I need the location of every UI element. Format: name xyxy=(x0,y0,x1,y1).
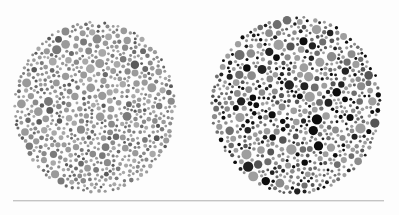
dot xyxy=(39,83,43,87)
dot xyxy=(112,154,115,157)
dot xyxy=(265,48,273,56)
dot xyxy=(75,51,79,55)
dot xyxy=(351,108,356,113)
dot xyxy=(336,177,340,181)
dot xyxy=(74,36,79,41)
dot xyxy=(263,115,268,120)
dot xyxy=(132,100,136,104)
dot xyxy=(91,54,94,57)
dot xyxy=(334,115,337,118)
dot xyxy=(155,68,162,75)
dot xyxy=(356,106,359,109)
dot xyxy=(300,179,303,182)
dot xyxy=(260,52,264,56)
dot xyxy=(228,150,231,153)
dot xyxy=(294,55,300,61)
dot xyxy=(245,86,252,93)
dot xyxy=(144,126,148,130)
dot xyxy=(341,55,345,59)
dot xyxy=(308,105,311,108)
dot xyxy=(117,77,122,82)
dot xyxy=(249,31,252,34)
dot xyxy=(156,92,160,96)
dot xyxy=(357,52,360,55)
dot xyxy=(308,167,312,171)
dot xyxy=(162,97,165,100)
dot xyxy=(336,37,339,40)
dot xyxy=(137,161,140,164)
dot xyxy=(163,145,167,149)
dot xyxy=(322,95,326,99)
dot xyxy=(311,84,319,92)
dot xyxy=(56,100,59,103)
dot xyxy=(356,45,360,49)
dot xyxy=(364,71,373,80)
dot xyxy=(323,129,327,133)
dot xyxy=(43,83,47,87)
dot xyxy=(219,73,223,77)
dot xyxy=(142,79,148,85)
dot xyxy=(289,61,292,64)
dot xyxy=(168,98,175,105)
dot xyxy=(50,151,57,158)
dot xyxy=(87,149,90,152)
dot xyxy=(311,183,315,187)
dot xyxy=(272,157,275,160)
dot xyxy=(339,60,342,63)
dot xyxy=(137,54,140,57)
dot xyxy=(41,151,46,156)
dot xyxy=(261,154,264,157)
dot xyxy=(87,77,92,82)
dot xyxy=(143,44,147,48)
dot xyxy=(21,128,29,136)
dot xyxy=(80,72,87,79)
dot xyxy=(343,113,346,116)
dot xyxy=(332,137,335,140)
dot xyxy=(243,162,253,172)
dot xyxy=(292,65,296,69)
dot xyxy=(136,113,139,116)
dot xyxy=(260,174,263,177)
dot xyxy=(270,170,275,175)
dot xyxy=(310,24,313,27)
dot xyxy=(70,75,73,78)
dot xyxy=(312,25,321,34)
dot xyxy=(78,48,83,53)
dot xyxy=(357,82,365,90)
dot xyxy=(59,110,62,113)
dot xyxy=(78,70,81,73)
dot xyxy=(376,92,381,97)
dot xyxy=(126,101,132,107)
dot xyxy=(104,159,111,166)
dot xyxy=(143,144,147,148)
dot xyxy=(78,57,81,60)
dot xyxy=(256,61,259,64)
dot xyxy=(59,67,62,70)
dot xyxy=(287,132,290,135)
dot xyxy=(85,124,88,127)
dot xyxy=(168,134,171,137)
dot xyxy=(299,130,303,134)
dot xyxy=(321,77,324,80)
dot xyxy=(259,38,263,42)
dot xyxy=(256,57,259,60)
dot xyxy=(136,137,139,140)
dot xyxy=(124,163,128,167)
dot xyxy=(112,164,115,167)
dot xyxy=(88,106,91,109)
dot xyxy=(233,105,239,111)
dot xyxy=(100,175,104,179)
dot xyxy=(152,118,158,124)
dot xyxy=(343,107,346,110)
dot xyxy=(156,64,159,67)
dot xyxy=(41,42,44,45)
dot xyxy=(309,160,312,163)
dot xyxy=(88,56,91,59)
dot xyxy=(109,150,112,153)
dot xyxy=(330,87,333,90)
dot xyxy=(274,161,278,165)
dot xyxy=(257,25,263,31)
dot xyxy=(117,50,120,53)
dot xyxy=(323,174,326,177)
dot xyxy=(161,120,166,125)
